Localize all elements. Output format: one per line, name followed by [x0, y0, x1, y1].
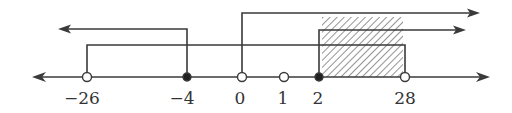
open-point-0 [238, 73, 247, 82]
tick-label: 28 [394, 88, 416, 108]
tick-label: −4 [169, 88, 194, 108]
tick-label: 0 [235, 88, 246, 108]
closed-point-neg4 [183, 73, 191, 81]
tick-label: 1 [278, 88, 289, 108]
main-axis [32, 72, 490, 82]
closed-point-2 [315, 73, 323, 81]
open-point-neg26 [83, 73, 92, 82]
tick-label: 2 [313, 88, 324, 108]
open-point-1 [280, 73, 289, 82]
solution-region-hatch [322, 17, 403, 77]
interval-x-le-neg4 [58, 25, 187, 78]
tick-label: −26 [64, 88, 100, 108]
open-point-28 [401, 73, 410, 82]
tick-labels: −26 −4 0 1 2 28 [64, 88, 416, 108]
number-line-diagram: −26 −4 0 1 2 28 [0, 0, 512, 113]
